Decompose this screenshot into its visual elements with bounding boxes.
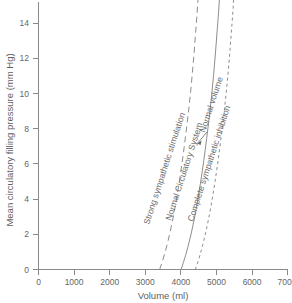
- y-tick-label-6: 6: [24, 159, 29, 169]
- x-axis-title: Volume (ml): [138, 290, 189, 301]
- y-axis-title: Mean circulatory filling pressure (mm Hg…: [4, 53, 15, 226]
- y-tick-label-0: 0: [24, 265, 29, 275]
- x-tick-label-6000: 6000: [243, 277, 262, 287]
- y-tick-label-10: 10: [20, 89, 30, 99]
- x-axis-ticks: [39, 270, 288, 275]
- y-tick-label-8: 8: [24, 124, 29, 134]
- x-axis-tick-labels: 0 1000 2000 3000 4000 5000 6000 7000: [36, 277, 292, 287]
- mean-circulatory-filling-pressure-chart: 0 2 4 6 8 10 12 14 0 1000 2000 3000 4000: [0, 0, 292, 303]
- x-tick-label-3000: 3000: [136, 277, 155, 287]
- x-tick-label-5000: 5000: [207, 277, 226, 287]
- y-tick-label-14: 14: [20, 18, 30, 28]
- y-tick-label-2: 2: [24, 229, 29, 239]
- y-axis-tick-labels: 0 2 4 6 8 10 12 14: [20, 18, 30, 274]
- chart-container: 0 2 4 6 8 10 12 14 0 1000 2000 3000 4000: [0, 0, 292, 303]
- x-tick-label-2000: 2000: [100, 277, 119, 287]
- y-tick-label-12: 12: [20, 53, 30, 63]
- x-tick-label-7000: 7000: [278, 277, 292, 287]
- x-tick-label-0: 0: [36, 277, 41, 287]
- y-axis-ticks: [33, 23, 39, 269]
- y-tick-label-4: 4: [24, 194, 29, 204]
- x-tick-label-1000: 1000: [65, 277, 84, 287]
- x-tick-label-4000: 4000: [171, 277, 190, 287]
